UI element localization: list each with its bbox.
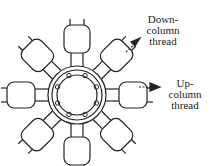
tube xyxy=(64,19,90,66)
tube xyxy=(64,124,90,166)
up-arrow xyxy=(139,83,160,91)
inner-nubs xyxy=(55,73,98,116)
tube xyxy=(106,82,153,108)
outer-tubes xyxy=(1,19,153,166)
tube xyxy=(1,82,48,108)
label-line: thread xyxy=(162,100,208,111)
down-column-thread-label: Down- column thread xyxy=(140,14,186,47)
inner-ring xyxy=(57,75,97,115)
central-column xyxy=(48,66,106,124)
label-line: thread xyxy=(140,36,186,47)
tube xyxy=(14,32,66,84)
middle-ring xyxy=(52,70,102,120)
tube xyxy=(88,32,140,84)
tube xyxy=(14,106,66,158)
tube xyxy=(88,106,140,158)
down-arrow xyxy=(126,38,140,52)
up-column-thread-label: Up- column thread xyxy=(162,78,208,111)
